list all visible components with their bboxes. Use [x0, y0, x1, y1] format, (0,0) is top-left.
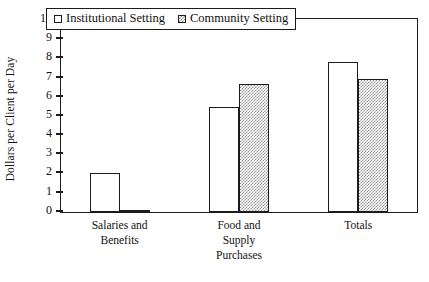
- y-tick-label: 7: [28, 68, 52, 85]
- y-tick-label: 6: [28, 87, 52, 104]
- x-axis-label-line: Salaries and: [65, 218, 175, 233]
- y-tick-label: 3: [28, 144, 52, 161]
- y-tick-label: 1: [28, 183, 52, 200]
- x-axis-label-line: Food and: [184, 218, 294, 233]
- y-tick-label: 9: [28, 29, 52, 46]
- x-axis-label-line: Purchases: [184, 248, 294, 263]
- legend-item: Institutional Setting: [54, 11, 165, 26]
- chart-legend: Institutional SettingCommunity Setting: [46, 8, 296, 30]
- bar-group: [209, 19, 269, 212]
- y-tick-label: 8: [28, 48, 52, 65]
- bar: [120, 210, 150, 212]
- plot-area: 012345678910: [60, 18, 418, 213]
- x-axis-label-line: Totals: [303, 218, 413, 233]
- legend-swatch-icon: [178, 15, 186, 23]
- x-axis-label-line: Benefits: [65, 233, 175, 248]
- bar-group: [90, 19, 150, 212]
- y-tick-label: 4: [28, 125, 52, 142]
- x-axis-label-line: Supply: [184, 233, 294, 248]
- legend-swatch-icon: [54, 15, 62, 23]
- legend-label: Institutional Setting: [66, 11, 165, 26]
- legend-label: Community Setting: [190, 11, 288, 26]
- x-axis-label: Totals: [303, 218, 413, 263]
- x-axis-label: Food andSupplyPurchases: [184, 218, 294, 263]
- bar-groups: [61, 19, 417, 212]
- y-tick-label: 2: [28, 163, 52, 180]
- y-tick-label: 0: [28, 202, 52, 219]
- x-axis-label: Salaries andBenefits: [65, 218, 175, 263]
- bar: [239, 84, 269, 212]
- bar: [209, 107, 239, 212]
- y-axis-title: Dollars per Client per Day: [4, 21, 20, 217]
- bar-chart: Dollars per Client per Day 012345678910 …: [0, 0, 429, 282]
- bar: [328, 62, 358, 212]
- bar-group: [328, 19, 388, 212]
- plot-inner: 012345678910: [61, 19, 417, 212]
- x-axis-labels: Salaries andBenefitsFood andSupplyPurcha…: [60, 218, 418, 263]
- bar: [358, 79, 388, 212]
- y-tick-label: 5: [28, 106, 52, 123]
- bar: [90, 173, 120, 212]
- legend-item: Community Setting: [178, 11, 288, 26]
